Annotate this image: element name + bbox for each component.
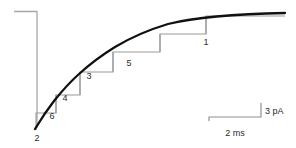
step-label-4: 4	[62, 93, 67, 103]
step-label-6: 6	[49, 111, 54, 121]
plot-svg: 1 2 3 4 5 6 3 pA 2 ms	[0, 0, 296, 148]
step-label-5: 5	[126, 58, 131, 68]
vertical-scale-label: 3 pA	[265, 106, 284, 116]
step-label-1: 1	[203, 37, 208, 47]
figure-panel: 1 2 3 4 5 6 3 pA 2 ms	[0, 0, 296, 148]
horizontal-scale-label: 2 ms	[225, 128, 245, 138]
step-label-2: 2	[34, 133, 39, 143]
step-label-3: 3	[86, 71, 91, 81]
plot-background	[0, 0, 296, 148]
